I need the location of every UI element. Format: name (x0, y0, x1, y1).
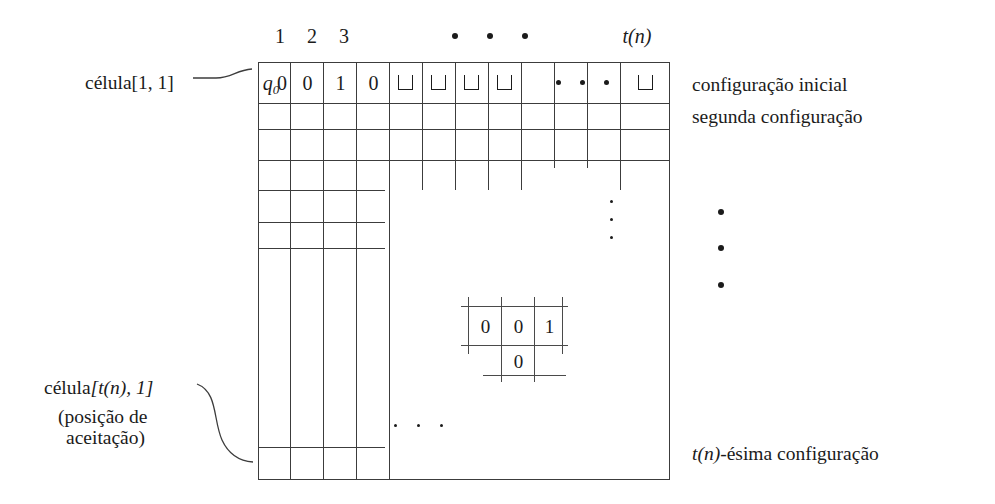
label-last-configuration: t(n)-ésima configuração (692, 442, 879, 466)
label-last-configuration-rest: -ésima configuração (720, 443, 879, 464)
label-second-configuration: segunda configuração (692, 105, 863, 129)
leader-path-bottom (197, 384, 253, 462)
label-last-configuration-tn: t(n) (692, 443, 720, 464)
outer-vertical-dot-3 (718, 282, 724, 288)
label-initial-configuration: configuração inicial (692, 73, 847, 97)
outer-vertical-dot-1 (718, 209, 724, 215)
outer-vertical-dot-2 (718, 245, 724, 251)
figure-canvas: 1 2 3 t(n) q0 0 0 1 0 (0, 0, 995, 504)
